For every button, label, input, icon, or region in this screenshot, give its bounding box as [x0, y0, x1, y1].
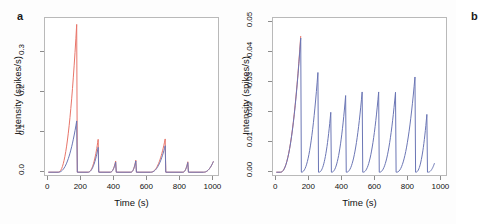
- x-tickmark: [374, 176, 375, 180]
- x-tickmark: [440, 176, 441, 180]
- y-tick-label: 0.01: [245, 127, 254, 153]
- y-tickmark: [40, 131, 44, 132]
- x-axis-title-a: Time (s): [44, 197, 219, 208]
- x-tickmark: [179, 176, 180, 180]
- x-tick-label: 1000: [420, 182, 460, 191]
- x-tickmark: [407, 176, 408, 180]
- y-tickmark: [268, 171, 272, 172]
- y-tickmark: [268, 21, 272, 22]
- x-tickmark: [341, 176, 342, 180]
- curve-red-trace: [48, 24, 213, 172]
- y-tick-label: 0.02: [245, 97, 254, 123]
- y-tickmark: [268, 51, 272, 52]
- y-tick-label: 0.0: [17, 157, 26, 183]
- y-tick-label: 0.2: [17, 77, 26, 103]
- x-tickmark: [308, 176, 309, 180]
- panel-b: b Time (s) Intensity (spikes/s) 02004006…: [228, 0, 456, 224]
- curve-blue-trace: [48, 121, 213, 172]
- panel-label-b: b: [471, 10, 478, 22]
- x-tickmark: [146, 176, 147, 180]
- x-tick-label: 1000: [192, 182, 232, 191]
- y-tick-label: 0.03: [245, 67, 254, 93]
- y-tickmark: [40, 91, 44, 92]
- y-tick-label: 0.1: [17, 117, 26, 143]
- y-tickmark: [268, 111, 272, 112]
- y-tick-label: 0.00: [245, 157, 254, 183]
- y-tickmark: [40, 51, 44, 52]
- y-tick-label: 0.04: [245, 37, 254, 63]
- y-tickmark: [268, 81, 272, 82]
- curve-blue-trace: [276, 38, 434, 172]
- y-tickmark: [268, 141, 272, 142]
- y-tick-label: 0.3: [17, 37, 26, 63]
- x-tickmark: [275, 176, 276, 180]
- y-tickmark: [40, 171, 44, 172]
- x-tickmark: [212, 176, 213, 180]
- plot-area-a: [44, 17, 219, 176]
- plot-area-b: [272, 17, 447, 176]
- x-tickmark: [80, 176, 81, 180]
- y-tick-label: 0.05: [245, 7, 254, 33]
- plot-curves-a: [45, 18, 220, 177]
- x-axis-title-b: Time (s): [272, 197, 447, 208]
- curve-red-trace: [276, 36, 300, 172]
- x-tickmark: [47, 176, 48, 180]
- plot-curves-b: [273, 18, 448, 177]
- panel-a: a Time (s) Intensity (spikes/s) 02004006…: [0, 0, 228, 224]
- x-tickmark: [113, 176, 114, 180]
